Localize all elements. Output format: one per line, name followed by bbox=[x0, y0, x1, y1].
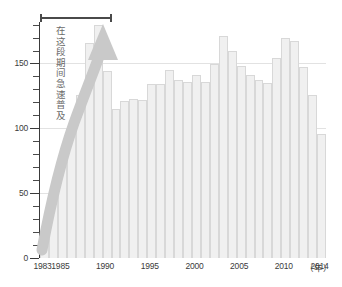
bar-2002 bbox=[210, 64, 219, 259]
y-tick-60 bbox=[33, 180, 39, 181]
y-tick-100 bbox=[30, 128, 39, 129]
bar-1996 bbox=[156, 84, 165, 258]
bar-1997 bbox=[165, 70, 174, 258]
y-tick-10 bbox=[33, 245, 39, 246]
bracket-cap-right bbox=[110, 14, 112, 22]
bar-2004 bbox=[228, 51, 237, 258]
bar-series bbox=[40, 22, 326, 258]
bar-2014 bbox=[317, 134, 326, 258]
bar-2000 bbox=[192, 75, 201, 258]
y-tick-0 bbox=[30, 258, 39, 259]
bar-1985 bbox=[58, 163, 67, 258]
bar-2001 bbox=[201, 82, 210, 258]
y-tick-140 bbox=[33, 76, 39, 77]
bar-2008 bbox=[263, 83, 272, 258]
bar-1987 bbox=[76, 95, 85, 258]
y-tick-170 bbox=[33, 38, 39, 39]
bar-2009 bbox=[272, 58, 281, 258]
x-axis-unit-label: （年） bbox=[305, 261, 332, 273]
y-tick-label-50: 50 bbox=[2, 188, 28, 198]
bar-2010 bbox=[281, 38, 290, 258]
bar-1998 bbox=[174, 80, 183, 258]
bar-1984 bbox=[49, 200, 58, 258]
y-axis-labels: 150 100 50 0 bbox=[0, 0, 28, 287]
bar-1983 bbox=[40, 240, 49, 258]
y-tick-90 bbox=[33, 141, 39, 142]
bar-2005 bbox=[237, 66, 246, 258]
bar-2006 bbox=[246, 75, 255, 258]
y-tick-70 bbox=[33, 167, 39, 168]
bar-1995 bbox=[147, 84, 156, 258]
x-tick-label-2010: 2010 bbox=[275, 261, 293, 271]
y-tick-40 bbox=[33, 206, 39, 207]
y-tick-label-150: 150 bbox=[2, 58, 28, 68]
y-tick-180 bbox=[33, 25, 39, 26]
y-tick-30 bbox=[33, 219, 39, 220]
period-annotation-text: 在这段期间急速普及 bbox=[51, 26, 65, 121]
bracket-span bbox=[40, 17, 112, 19]
y-tick-110 bbox=[33, 115, 39, 116]
y-tick-50 bbox=[30, 193, 39, 194]
y-tick-120 bbox=[33, 102, 39, 103]
bar-1994 bbox=[138, 100, 147, 258]
x-axis-labels: 1983 1985 1990 1995 2000 2005 2010 2014 … bbox=[0, 261, 342, 281]
x-tick-label-1985: 1985 bbox=[51, 261, 69, 271]
bar-1988 bbox=[85, 43, 94, 258]
x-tick-label-1990: 1990 bbox=[96, 261, 114, 271]
bar-2012 bbox=[299, 67, 308, 258]
x-tick-label-2005: 2005 bbox=[230, 261, 248, 271]
bar-1986 bbox=[67, 127, 76, 258]
bar-2003 bbox=[219, 36, 228, 258]
y-tick-label-100: 100 bbox=[2, 123, 28, 133]
bar-1993 bbox=[129, 99, 138, 258]
bar-2011 bbox=[290, 41, 299, 258]
period-bracket bbox=[40, 14, 112, 22]
y-tick-130 bbox=[33, 89, 39, 90]
x-tick-label-2000: 2000 bbox=[185, 261, 203, 271]
bar-2013 bbox=[308, 95, 317, 258]
bar-chart: 150 100 50 0 在这段期间急速普及 1983 1985 1990 19… bbox=[0, 0, 342, 287]
bar-1990 bbox=[103, 71, 112, 258]
bar-2007 bbox=[255, 80, 264, 258]
bar-1992 bbox=[120, 101, 129, 258]
bar-1999 bbox=[183, 82, 192, 258]
y-tick-20 bbox=[33, 232, 39, 233]
bar-1989 bbox=[94, 25, 103, 258]
x-tick-label-1983: 1983 bbox=[33, 261, 51, 271]
y-tick-160 bbox=[33, 51, 39, 52]
bar-1991 bbox=[112, 109, 121, 258]
y-tick-150 bbox=[30, 63, 39, 64]
y-tick-80 bbox=[33, 154, 39, 155]
x-tick-label-1995: 1995 bbox=[141, 261, 159, 271]
